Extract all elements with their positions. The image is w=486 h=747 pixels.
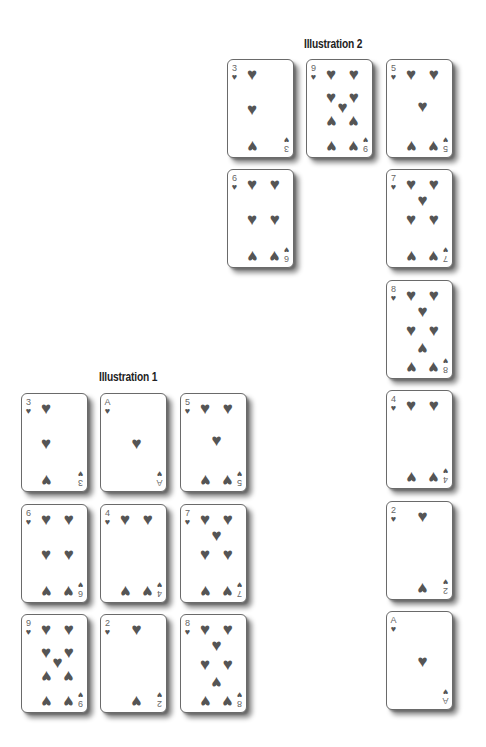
heart-pip-icon: ♥ xyxy=(219,583,236,600)
heart-pip-icon: ♥ xyxy=(197,400,214,417)
playing-card-5-of-hearts: 5♥5♥♥♥♥♥♥ xyxy=(386,59,453,158)
heart-pip-icon: ♥ xyxy=(219,693,236,710)
heart-pip-icon: ♥ xyxy=(403,211,420,228)
card-rank: 2 xyxy=(441,586,450,595)
heart-icon: ♥ xyxy=(235,470,244,478)
heart-icon: ♥ xyxy=(441,357,450,365)
card-corner-index: 6♥ xyxy=(76,581,85,598)
heart-icon: ♥ xyxy=(155,691,164,699)
heart-icon: ♥ xyxy=(24,407,33,415)
playing-card-A-of-hearts: A♥A♥♥ xyxy=(100,393,167,492)
heart-icon: ♥ xyxy=(103,407,112,415)
heart-pip-icon: ♥ xyxy=(60,668,77,685)
heart-icon: ♥ xyxy=(76,691,85,699)
card-corner-index: 4♥ xyxy=(155,581,164,598)
card-corner-index: 7♥ xyxy=(389,174,398,191)
card-corner-index: 5♥ xyxy=(235,470,244,487)
card-corner-index: 9♥ xyxy=(24,619,33,636)
card-corner-index: 6♥ xyxy=(230,174,239,191)
heart-icon: ♥ xyxy=(235,581,244,589)
heart-pip-icon: ♥ xyxy=(219,400,236,417)
heart-icon: ♥ xyxy=(361,136,370,144)
heart-pip-icon: ♥ xyxy=(219,546,236,563)
card-rank: 8 xyxy=(235,699,244,708)
heart-pip-icon: ♥ xyxy=(219,621,236,638)
heart-pip-icon: ♥ xyxy=(128,621,145,638)
card-corner-index: 2♥ xyxy=(103,619,112,636)
heart-pip-icon: ♥ xyxy=(244,211,261,228)
card-rank: 7 xyxy=(235,589,244,598)
card-corner-index: 7♥ xyxy=(235,581,244,598)
heart-pip-icon: ♥ xyxy=(345,113,362,130)
heart-pip-icon: ♥ xyxy=(425,397,442,414)
card-corner-index: 2♥ xyxy=(441,578,450,595)
heart-pip-icon: ♥ xyxy=(60,511,77,528)
card-rank: 5 xyxy=(441,144,450,153)
heart-pip-icon: ♥ xyxy=(219,511,236,528)
card-corner-index: 5♥ xyxy=(389,64,398,81)
card-corner-index: 3♥ xyxy=(24,398,33,415)
card-corner-index: 4♥ xyxy=(441,467,450,484)
heart-icon: ♥ xyxy=(183,407,192,415)
heart-pip-icon: ♥ xyxy=(414,340,431,357)
card-corner-index: A♥ xyxy=(103,398,112,415)
heart-icon: ♥ xyxy=(309,73,318,81)
illustration-2-title: Illustration 2 xyxy=(304,37,362,51)
heart-pip-icon: ♥ xyxy=(414,580,431,597)
heart-pip-icon: ♥ xyxy=(128,693,145,710)
playing-card-7-of-hearts: 7♥7♥♥♥♥♥♥♥♥ xyxy=(180,504,247,603)
heart-pip-icon: ♥ xyxy=(425,359,442,376)
heart-pip-icon: ♥ xyxy=(425,138,442,155)
heart-pip-icon: ♥ xyxy=(60,546,77,563)
playing-card-4-of-hearts: 4♥4♥♥♥♥♥ xyxy=(100,504,167,603)
heart-pip-icon: ♥ xyxy=(425,211,442,228)
heart-pip-icon: ♥ xyxy=(208,527,225,544)
playing-card-A-of-hearts: A♥A♥♥ xyxy=(386,611,453,710)
heart-pip-icon: ♥ xyxy=(244,138,261,155)
heart-pip-icon: ♥ xyxy=(208,432,225,449)
heart-pip-icon: ♥ xyxy=(38,546,55,563)
card-corner-index: A♥ xyxy=(441,688,450,705)
heart-icon: ♥ xyxy=(389,515,398,523)
heart-pip-icon: ♥ xyxy=(244,66,261,83)
heart-icon: ♥ xyxy=(183,628,192,636)
card-rank: A xyxy=(441,696,450,705)
card-corner-index: 3♥ xyxy=(230,64,239,81)
heart-pip-icon: ♥ xyxy=(266,211,283,228)
card-corner-index: 2♥ xyxy=(155,691,164,708)
heart-pip-icon: ♥ xyxy=(38,435,55,452)
card-rank: 2 xyxy=(155,699,164,708)
playing-card-5-of-hearts: 5♥5♥♥♥♥♥♥ xyxy=(180,393,247,492)
heart-pip-icon: ♥ xyxy=(38,400,55,417)
heart-icon: ♥ xyxy=(441,136,450,144)
heart-icon: ♥ xyxy=(24,628,33,636)
heart-pip-icon: ♥ xyxy=(425,322,442,339)
heart-pip-icon: ♥ xyxy=(244,101,261,118)
card-corner-index: A♥ xyxy=(155,470,164,487)
heart-pip-icon: ♥ xyxy=(38,668,55,685)
card-corner-index: 8♥ xyxy=(389,285,398,302)
heart-icon: ♥ xyxy=(441,467,450,475)
card-rank: 7 xyxy=(441,254,450,263)
playing-card-2-of-hearts: 2♥2♥♥♥ xyxy=(386,501,453,600)
card-corner-index: 4♥ xyxy=(389,395,398,412)
heart-pip-icon: ♥ xyxy=(38,693,55,710)
heart-icon: ♥ xyxy=(24,518,33,526)
heart-icon: ♥ xyxy=(441,688,450,696)
heart-pip-icon: ♥ xyxy=(345,66,362,83)
heart-pip-icon: ♥ xyxy=(403,397,420,414)
card-rank: 3 xyxy=(76,478,85,487)
card-rank: 5 xyxy=(235,478,244,487)
playing-card-6-of-hearts: 6♥6♥♥♥♥♥♥♥ xyxy=(21,504,88,603)
heart-pip-icon: ♥ xyxy=(60,621,77,638)
heart-pip-icon: ♥ xyxy=(117,583,134,600)
heart-icon: ♥ xyxy=(76,470,85,478)
card-rank: 4 xyxy=(155,589,164,598)
heart-icon: ♥ xyxy=(441,578,450,586)
card-corner-index: 4♥ xyxy=(103,509,112,526)
heart-pip-icon: ♥ xyxy=(323,113,340,130)
card-corner-index: 9♥ xyxy=(361,136,370,153)
heart-pip-icon: ♥ xyxy=(414,508,431,525)
illustration-1-title: Illustration 1 xyxy=(99,370,157,384)
card-corner-index: 7♥ xyxy=(441,246,450,263)
